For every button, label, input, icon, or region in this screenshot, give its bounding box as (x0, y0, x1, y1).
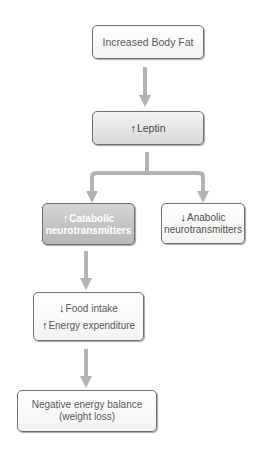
arrow-leptin-stem (145, 152, 149, 171)
node-label: Leptin (137, 122, 166, 134)
food-intake-label: Food intake (66, 303, 118, 314)
arrow-catabolic-to-food (84, 251, 88, 279)
node-label-line1: Catabolic (69, 213, 114, 224)
node-label-line1: Negative energy balance (32, 399, 143, 411)
arrow-bodyfat-to-leptin (143, 67, 147, 96)
node-increased-body-fat: Increased Body Fat (92, 25, 204, 59)
node-food-energy: ↓Food intake ↑Energy expenditure (33, 292, 144, 341)
node-label: Increased Body Fat (102, 36, 193, 48)
up-arrow-icon: ↑ (130, 122, 136, 134)
node-label-line2: neurotransmitters (164, 224, 242, 236)
node-label-line2: neurotransmitters (46, 225, 132, 237)
down-arrow-icon: ↓ (181, 211, 187, 223)
arrow-food-to-negative (84, 349, 88, 377)
node-catabolic-neurotransmitters: ↑Catabolic neurotransmitters (42, 203, 135, 245)
node-label-line2: (weight loss) (59, 411, 115, 423)
node-negative-energy-balance: Negative energy balance (weight loss) (17, 390, 157, 432)
down-arrow-icon: ↓ (59, 302, 65, 314)
energy-expenditure-label: Energy expenditure (48, 320, 135, 331)
node-anabolic-neurotransmitters: ↓Anabolic neurotransmitters (161, 203, 245, 244)
up-arrow-icon: ↑ (42, 319, 48, 331)
up-arrow-icon: ↑ (63, 212, 69, 224)
node-leptin: ↑Leptin (92, 111, 204, 145)
node-label-line1: Anabolic (187, 212, 225, 223)
